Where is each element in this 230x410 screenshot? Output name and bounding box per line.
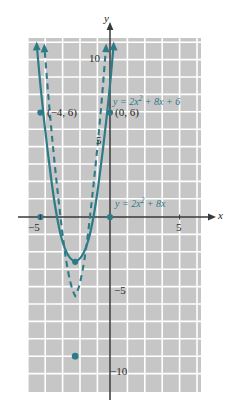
y-tick-5: 5 xyxy=(96,135,102,146)
equation-label-solid: y = 2x2 + 8x + 6 xyxy=(113,96,180,107)
equation-dashed-suffix: + 8x xyxy=(144,198,165,209)
y-tick-neg10: −10 xyxy=(110,366,127,377)
equation-solid-prefix: y = 2 xyxy=(113,96,134,107)
point-label-0-6: (0, 6) xyxy=(115,107,139,118)
x-tick-5: 5 xyxy=(176,222,182,233)
graph-figure: y x 10 5 −5 −10 −5 5 (−4, 6) (0, 6) y = … xyxy=(0,0,230,410)
x-tick-neg5: −5 xyxy=(28,222,40,233)
point-0-6 xyxy=(107,110,113,116)
y-tick-neg5: −5 xyxy=(114,285,126,296)
y-axis-label: y xyxy=(104,13,109,24)
equation-dashed-prefix: y = 2 xyxy=(115,198,136,209)
x-axis-label: x xyxy=(218,210,223,221)
point-label-neg4-6: (−4, 6) xyxy=(47,107,77,118)
equation-label-dashed: y = 2x2 + 8x xyxy=(115,198,165,209)
vertex-dashed xyxy=(72,353,79,360)
equation-solid-suffix: + 8x + 6 xyxy=(142,96,180,107)
vertex-solid xyxy=(72,259,78,265)
y-tick-10: 10 xyxy=(89,53,100,64)
point-neg4-6 xyxy=(37,110,43,116)
root-dashed-0 xyxy=(107,214,113,220)
